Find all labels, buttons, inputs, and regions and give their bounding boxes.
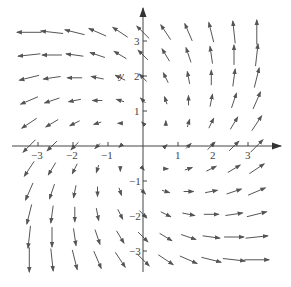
vector-arrow (114, 51, 126, 58)
vector-arrow (209, 22, 214, 42)
vector-arrow (28, 226, 31, 248)
vector-arrow (158, 255, 173, 265)
vector-arrow (18, 54, 40, 56)
vector-arrow (74, 228, 77, 245)
vector-arrow (163, 73, 168, 83)
y-tick-label: 2 (134, 70, 140, 82)
vector-arrow (96, 165, 98, 173)
vector-arrow (233, 21, 235, 43)
x-tick-label: 1 (175, 149, 181, 161)
y-tick-label: −3 (129, 245, 141, 257)
vector-arrow (89, 29, 106, 37)
vector-arrow (96, 208, 98, 220)
vector-arrow (72, 164, 77, 174)
vector-arrow (223, 259, 245, 262)
vector-arrow (256, 44, 259, 66)
vector-arrow (74, 185, 77, 197)
x-tick-label: −3 (31, 149, 43, 161)
vector-arrow (21, 97, 38, 104)
vector-arrow (72, 250, 77, 270)
vector-arrow (27, 204, 32, 224)
vector-arrow (181, 235, 196, 240)
vector-arrow (185, 168, 192, 171)
vector-arrow (22, 118, 37, 128)
x-tick-label: −1 (101, 149, 113, 161)
vector-arrow (203, 236, 220, 238)
vector-field-plot: −3−2−1123−3−2−1123 y (0, 0, 291, 287)
vector-arrow (117, 99, 125, 101)
vector-arrow (19, 75, 39, 80)
vector-arrow (185, 24, 192, 41)
vector-arrow (48, 163, 55, 175)
x-tick-label: 2 (210, 149, 216, 161)
vector-arrow (45, 98, 60, 103)
vector-arrow (117, 231, 125, 243)
vector-arrow (186, 48, 191, 63)
vector-arrow (182, 213, 194, 216)
vector-arrow (210, 94, 213, 106)
vector-arrow (201, 257, 221, 262)
vector-arrow (246, 236, 268, 238)
vector-arrow (233, 69, 235, 86)
y-tick-label: −1 (129, 175, 141, 187)
y-tick-label: 3 (134, 35, 140, 47)
vector-arrow (70, 121, 80, 126)
vector-arrow (205, 190, 217, 192)
vector-arrow (162, 49, 170, 61)
vector-arrow (232, 93, 237, 108)
vector-arrow (161, 25, 171, 40)
vector-arrow (253, 92, 261, 109)
vector-arrow (206, 166, 216, 171)
vector-arrow (46, 120, 58, 128)
vector-arrow (247, 212, 267, 217)
vector-arrow (249, 164, 264, 174)
x-tick-label: 3 (245, 149, 251, 161)
vector-arrow (160, 233, 172, 240)
vector-arrow (210, 46, 213, 63)
vector-arrow (69, 99, 81, 101)
vector-arrow (161, 212, 171, 217)
vector-arrow (50, 184, 55, 199)
vector-arrow (91, 77, 103, 80)
vector-arrow (227, 189, 242, 194)
vector-arrow (254, 68, 259, 88)
vector-arrow (119, 188, 122, 195)
vector-arrow (41, 31, 63, 34)
vector-arrow (209, 118, 214, 128)
vector-arrow (252, 116, 262, 131)
vector-arrow (113, 27, 128, 37)
vector-arrow (51, 206, 53, 223)
vector-arrow (115, 252, 125, 267)
vector-arrow (225, 213, 242, 216)
vector-arrow (187, 120, 189, 128)
vector-arrow (180, 256, 197, 264)
x-tick-label: −2 (66, 149, 78, 161)
vector-arrow (228, 165, 240, 173)
vector-arrow (24, 161, 34, 176)
vector-arrow (94, 122, 101, 125)
vector-arrow (230, 117, 237, 129)
vector-arrow (66, 54, 83, 56)
y-tick-label: 1 (134, 105, 140, 117)
vector-arrow (43, 77, 60, 80)
vector-arrow (118, 209, 123, 219)
vector-arrow (94, 251, 101, 268)
vector-arrow (248, 188, 265, 195)
y-tick-label: −2 (129, 210, 141, 222)
y-axis-label: y (118, 69, 124, 81)
vector-arrow (90, 53, 105, 58)
vector-arrow (95, 230, 100, 245)
vector-arrow (65, 30, 85, 35)
vector-arrow (162, 190, 170, 192)
vector-arrow (165, 97, 168, 104)
vector-arrow (51, 249, 53, 271)
vector-arrow (187, 72, 189, 84)
vector-arrow (26, 183, 34, 200)
